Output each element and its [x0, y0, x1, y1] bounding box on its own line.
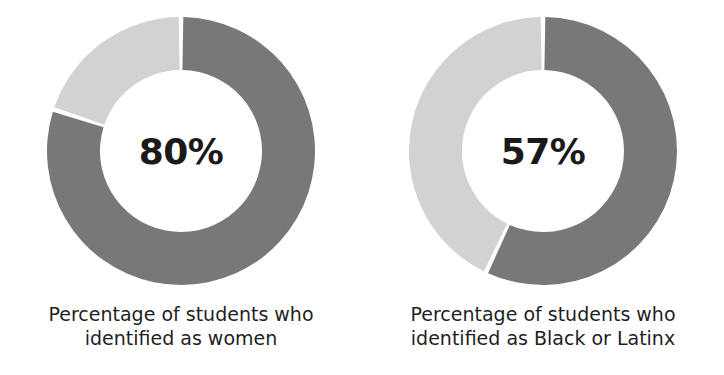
caption-black-or-latinx: Percentage of students who identified as…: [410, 302, 675, 351]
donut-chart-figure: 80% Percentage of students who identifie…: [0, 0, 724, 375]
donut-chart-black-or-latinx: 57%: [398, 6, 688, 296]
caption-women-line2: identified as women: [48, 326, 313, 350]
chart-block-women: 80% Percentage of students who identifie…: [0, 0, 362, 375]
donut-svg-women: [36, 6, 326, 296]
donut-segments-women: [47, 17, 315, 285]
donut-segment: [54, 17, 179, 125]
caption-women-line1: Percentage of students who: [48, 302, 313, 326]
donut-segments-black-or-latinx: [409, 17, 677, 285]
caption-black-or-latinx-line1: Percentage of students who: [410, 302, 675, 326]
chart-block-black-or-latinx: 57% Percentage of students who identifie…: [362, 0, 724, 375]
donut-svg-black-or-latinx: [398, 6, 688, 296]
caption-women: Percentage of students who identified as…: [48, 302, 313, 351]
donut-chart-women: 80%: [36, 6, 326, 296]
caption-black-or-latinx-line2: identified as Black or Latinx: [410, 326, 675, 350]
